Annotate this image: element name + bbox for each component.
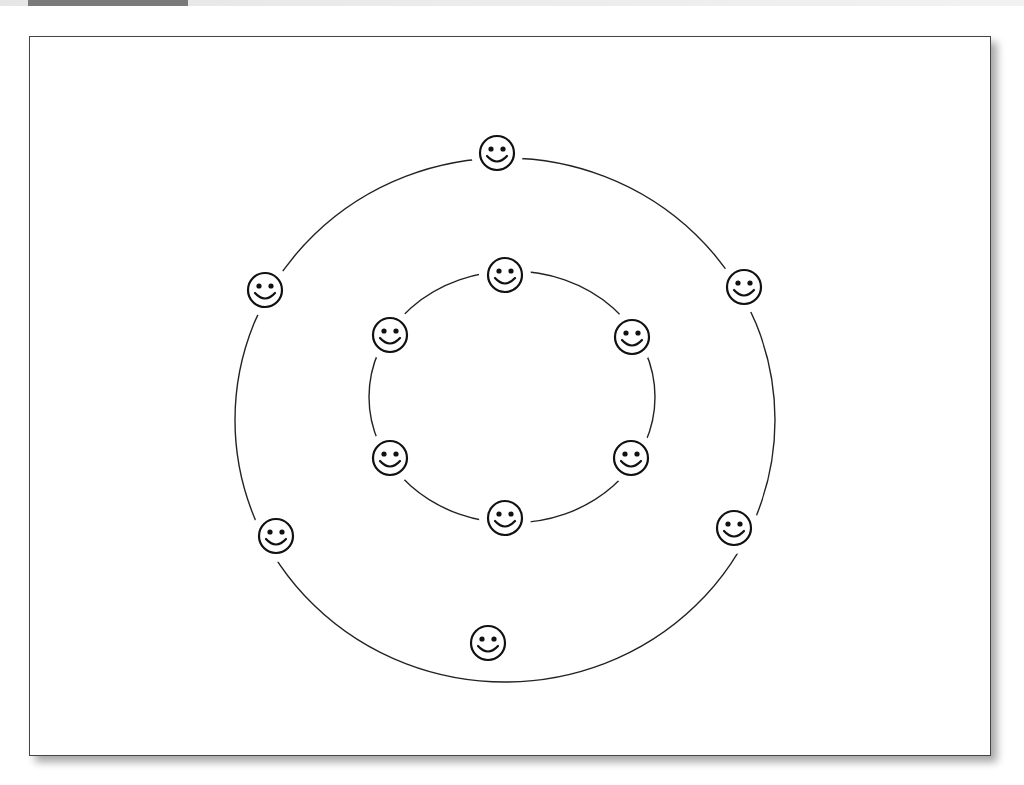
smiley-face-icon	[718, 261, 770, 313]
smiley-face-icon	[479, 492, 531, 544]
outer-ring	[235, 158, 775, 682]
rings-layer	[235, 158, 775, 682]
smiley-face-icon	[462, 617, 514, 669]
smiley-face-icon	[471, 127, 523, 179]
smiley-face-icon	[250, 510, 302, 562]
inner-ring	[369, 271, 655, 523]
smiley-face-icon	[606, 311, 658, 363]
smiley-face-icon	[364, 309, 416, 361]
concentric-rings-diagram	[0, 0, 1024, 785]
smiley-face-icon	[364, 432, 416, 484]
smiley-face-icon	[479, 249, 531, 301]
smiley-face-icon	[708, 502, 760, 554]
smiley-face-icon	[239, 264, 291, 316]
faces-layer	[239, 127, 770, 669]
smiley-face-icon	[605, 432, 657, 484]
